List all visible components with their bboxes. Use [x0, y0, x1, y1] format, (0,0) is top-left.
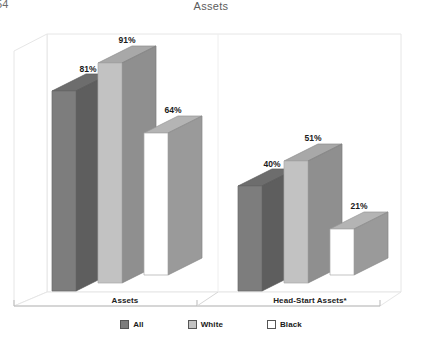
- chart-legend: All White Black: [0, 320, 422, 329]
- legend-label-all: All: [133, 320, 144, 329]
- legend-swatch-black-icon: [267, 320, 276, 329]
- bar-assets-black[interactable]: [144, 116, 202, 275]
- legend-swatch-white-icon: [188, 320, 197, 329]
- legend-item-white[interactable]: White: [188, 320, 223, 329]
- legend-item-all[interactable]: All: [120, 320, 144, 329]
- legend-item-black[interactable]: Black: [267, 320, 302, 329]
- legend-label-black: Black: [280, 320, 302, 329]
- bar-label-headstart-white: 51%: [304, 133, 321, 143]
- bar-label-assets-white: 91%: [118, 35, 135, 45]
- chart-plot-area: 81% 91% 64% 40% 51% 21%: [0, 0, 422, 343]
- legend-swatch-all-icon: [120, 320, 129, 329]
- category-label-assets: Assets: [65, 296, 185, 305]
- bar-label-headstart-black: 21%: [350, 201, 367, 211]
- bar-label-headstart-all: 40%: [263, 159, 280, 169]
- category-label-head-start-assets: Head-Start Assets*: [230, 296, 390, 305]
- bar-label-assets-all: 81%: [79, 64, 96, 74]
- legend-label-white: White: [201, 320, 223, 329]
- bar-label-assets-black: 64%: [164, 105, 181, 115]
